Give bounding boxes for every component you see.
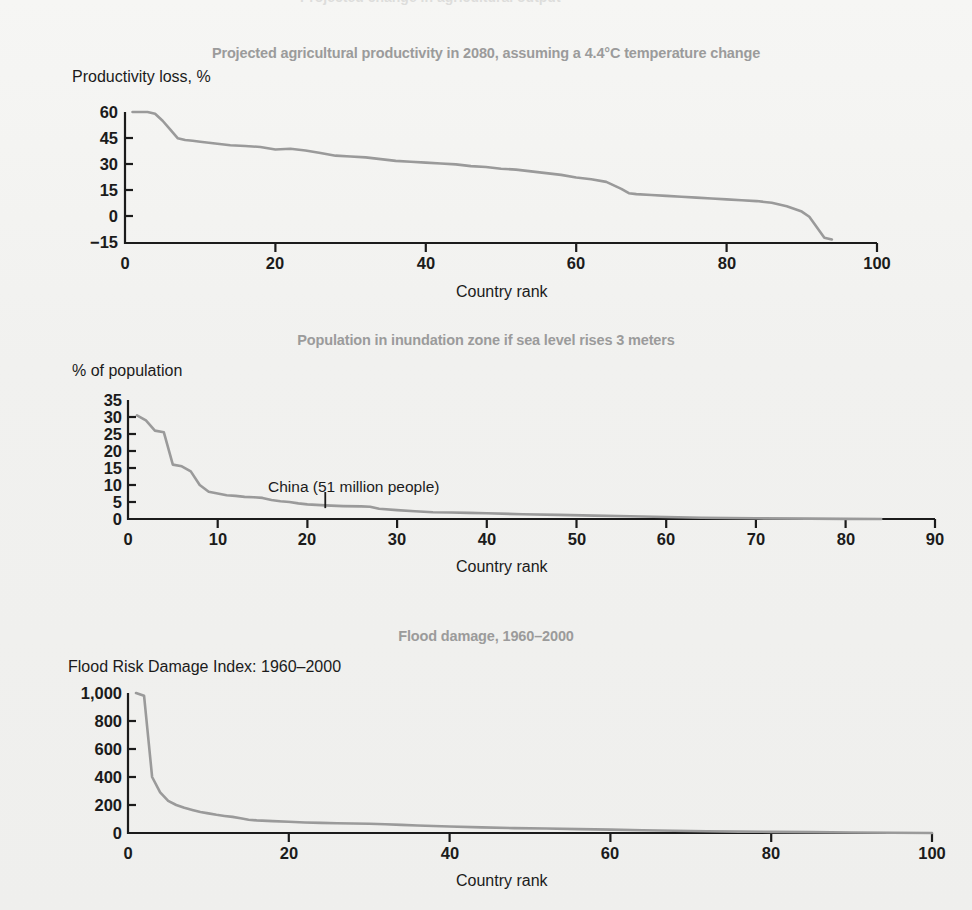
chart-panel-inundation-zone-population: Population in inundation zone if sea lev… xyxy=(0,320,972,620)
chart-panel-agricultural-productivity: Projected agricultural productivity in 2… xyxy=(0,0,972,320)
x-tick-2-0: 0 xyxy=(123,531,132,548)
annotation-china: China (51 million people) xyxy=(268,478,439,496)
x-tick-2-2: 20 xyxy=(298,531,316,548)
x-tick-3-2: 40 xyxy=(441,845,459,862)
x-tick-3-5: 100 xyxy=(918,845,946,862)
x-tick-2-5: 50 xyxy=(568,531,586,548)
x-tick-1-4: 80 xyxy=(718,255,736,272)
x-tick-1-1: 20 xyxy=(266,255,284,272)
plot-area-1 xyxy=(0,0,972,320)
x-tick-2-4: 40 xyxy=(478,531,496,548)
chart-panel-flood-damage: Flood damage, 1960–2000 Flood Risk Damag… xyxy=(0,620,972,910)
x-axis-title-3: Country rank xyxy=(456,872,548,890)
x-tick-1-2: 40 xyxy=(417,255,435,272)
x-tick-3-3: 60 xyxy=(601,845,619,862)
x-tick-2-6: 60 xyxy=(657,531,675,548)
x-tick-2-3: 30 xyxy=(388,531,406,548)
x-tick-3-1: 20 xyxy=(280,845,298,862)
x-tick-2-7: 70 xyxy=(747,531,765,548)
x-tick-1-3: 60 xyxy=(567,255,585,272)
x-axis-title-2: Country rank xyxy=(456,558,548,576)
x-tick-2-8: 80 xyxy=(837,531,855,548)
x-tick-2-9: 90 xyxy=(926,531,944,548)
x-tick-2-1: 10 xyxy=(209,531,227,548)
x-axis-title-1: Country rank xyxy=(456,283,548,301)
x-tick-3-4: 80 xyxy=(762,845,780,862)
plot-area-3 xyxy=(0,620,972,910)
x-tick-1-5: 100 xyxy=(863,255,891,272)
x-tick-1-0: 0 xyxy=(120,255,129,272)
x-tick-3-0: 0 xyxy=(123,845,132,862)
